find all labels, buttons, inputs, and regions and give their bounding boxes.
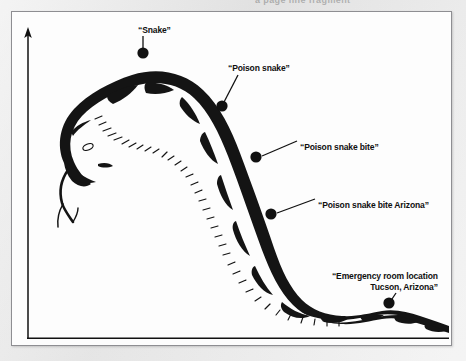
- vertical-axis-arrow: [24, 27, 32, 339]
- callout-label-emergency-room: “Emergency room location Tucson, Arizona…: [332, 271, 438, 293]
- callout-dot-emergency-room: [383, 297, 394, 308]
- page-edge-artifact: a page line fragment: [255, 0, 385, 7]
- callout-label-snake: “Snake”: [138, 25, 171, 36]
- callout-label-poison-snake-bite-arizona: “Poison snake bite Arizona”: [318, 200, 429, 211]
- callout-label-poison-snake-bite: “Poison snake bite”: [300, 142, 379, 153]
- callout-dot-poison-snake-bite: [250, 151, 261, 162]
- callout-label-emergency-room-line2: Tucson, Arizona”: [332, 282, 438, 293]
- artifact-text: a page line fragment: [255, 0, 385, 5]
- callout-dot-snake: [137, 47, 148, 58]
- callout-label-poison-snake: “Poison snake”: [228, 63, 290, 74]
- callout-dot-poison-snake: [216, 100, 227, 111]
- diagram-svg: [12, 12, 451, 345]
- figure-canvas: [12, 12, 451, 345]
- figure-frame: “Snake” “Poison snake” “Poison snake bit…: [11, 11, 452, 346]
- callout-label-emergency-room-line1: “Emergency room location: [332, 271, 438, 282]
- callout-dot-poison-snake-bite-arizona: [265, 208, 276, 219]
